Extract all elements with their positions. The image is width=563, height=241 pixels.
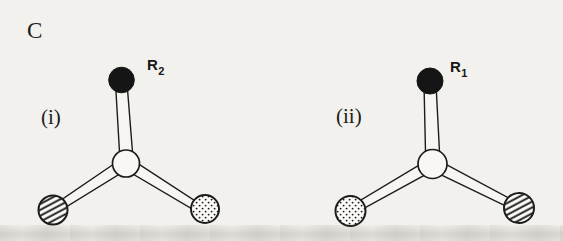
atom-black-ii	[417, 68, 443, 94]
central-atom-ii	[418, 150, 447, 179]
figure-panel: C (i) (ii) R2 R1	[0, 0, 563, 241]
bond-top-i	[116, 83, 133, 152]
substituent-r1-subscript: 1	[461, 67, 468, 79]
diagram-ii-label: (ii)	[336, 106, 362, 127]
substituent-label-r1: R1	[450, 59, 468, 74]
atom-black-i	[109, 67, 135, 93]
diagram-i-label: (i)	[41, 107, 61, 128]
substituent-r2-base: R	[147, 56, 158, 73]
molecule-ii	[336, 68, 535, 226]
atom-dotted-i	[191, 195, 219, 223]
molecule-i	[39, 67, 220, 224]
substituent-r1-base: R	[450, 58, 461, 75]
atom-hatched-i	[39, 196, 68, 225]
central-atom-i	[113, 150, 140, 177]
atom-dotted-ii	[336, 196, 366, 226]
atom-hatched-ii	[504, 193, 534, 223]
panel-label: C	[27, 19, 42, 42]
substituent-label-r2: R2	[147, 57, 165, 72]
molecule-diagrams	[0, 0, 563, 241]
substituent-r2-subscript: 2	[158, 65, 165, 77]
